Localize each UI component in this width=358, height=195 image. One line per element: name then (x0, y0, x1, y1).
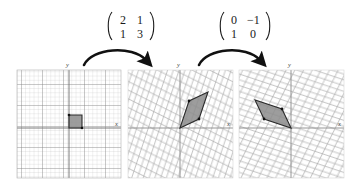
matrix-rotation-cell-1-1: 0 (250, 27, 256, 41)
panel-rotated: y x (239, 61, 344, 178)
panel-sheared-y-label: y (176, 61, 180, 68)
panel-rotated-x-label: x (337, 120, 341, 127)
panel-rotated-grid (239, 70, 344, 178)
rotated-parallelogram-vertex-dot-1 (281, 108, 284, 111)
matrix-rotation-cell-0-0: 0 (231, 13, 237, 27)
linear-transformation-figure: 2 1 1 3 0 −1 1 0 y x (0, 0, 358, 195)
matrix-shear-cell-0-1: 1 (137, 13, 143, 27)
panel-original-y-label: y (65, 61, 69, 68)
matrix-rotation-cell-0-1: −1 (247, 13, 260, 27)
panel-original: y x (17, 61, 121, 178)
panel-rotated-y-label: y (287, 61, 291, 68)
panel-sheared-grid (128, 70, 233, 178)
matrix-shear-cell-0-0: 2 (120, 13, 126, 27)
unit-square-vertex-dot-2 (68, 114, 71, 117)
transformed-parallelogram-vertex-dot-2 (188, 100, 191, 103)
panel-sheared: y x (128, 61, 233, 178)
matrix-shear-cell-1-0: 1 (120, 27, 126, 41)
panel-original-x-label: x (114, 120, 118, 127)
rotated-parallelogram-vertex-dot-2 (263, 118, 266, 121)
matrix-shear-cell-1-1: 3 (137, 27, 143, 41)
unit-square (69, 115, 82, 128)
matrix-rotation-cell-1-0: 1 (231, 27, 237, 41)
transformed-parallelogram-vertex-dot-1 (198, 118, 201, 121)
panel-sheared-x-label: x (226, 120, 230, 127)
unit-square-vertex-dot-1 (81, 127, 84, 130)
